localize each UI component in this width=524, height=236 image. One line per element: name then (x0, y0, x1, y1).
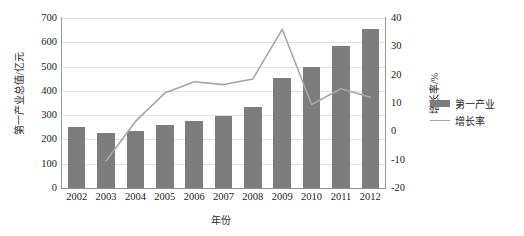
y-tick-label-left: 300 (13, 109, 57, 120)
legend-item-line[interactable]: 增长率 (430, 113, 522, 128)
legend-label-line: 增长率 (455, 113, 485, 128)
y-tick-label-right: 10 (391, 97, 431, 108)
y-tick-label-left: 400 (13, 85, 57, 96)
y-tick-label-left: 200 (13, 133, 57, 144)
line-series (62, 18, 385, 188)
growth-rate-line (106, 29, 370, 161)
y-tick-label-right: -20 (391, 182, 431, 193)
x-axis-title: 年份 (56, 212, 386, 227)
y-tick-label-right: 0 (391, 125, 431, 136)
y-tick-label-right: -10 (391, 154, 431, 165)
bar-swatch-icon (430, 100, 450, 107)
y-tick-label-left: 100 (13, 158, 57, 169)
y-tick-label-left: 600 (13, 36, 57, 47)
axis-line-bottom (61, 188, 386, 189)
y-axis-title-right: 增长率/% (426, 14, 441, 174)
line-swatch-icon (430, 117, 450, 124)
chart-container: 第一产业总值/亿元 增长率/% 年份 010020030040050060070… (0, 0, 524, 236)
legend-label-bar: 第一产业 (455, 96, 495, 111)
legend: 第一产业 增长率 (430, 96, 522, 130)
x-tick-label: 2012 (353, 191, 387, 202)
plot-area (62, 18, 385, 188)
legend-item-bar[interactable]: 第一产业 (430, 96, 522, 111)
y-tick-label-right: 20 (391, 69, 431, 80)
y-tick-label-right: 40 (391, 12, 431, 23)
y-tick-label-right: 30 (391, 40, 431, 51)
axis-line-right (385, 17, 386, 189)
y-tick-label-left: 700 (13, 12, 57, 23)
y-tick-label-left: 0 (13, 182, 57, 193)
y-tick-label-left: 500 (13, 61, 57, 72)
